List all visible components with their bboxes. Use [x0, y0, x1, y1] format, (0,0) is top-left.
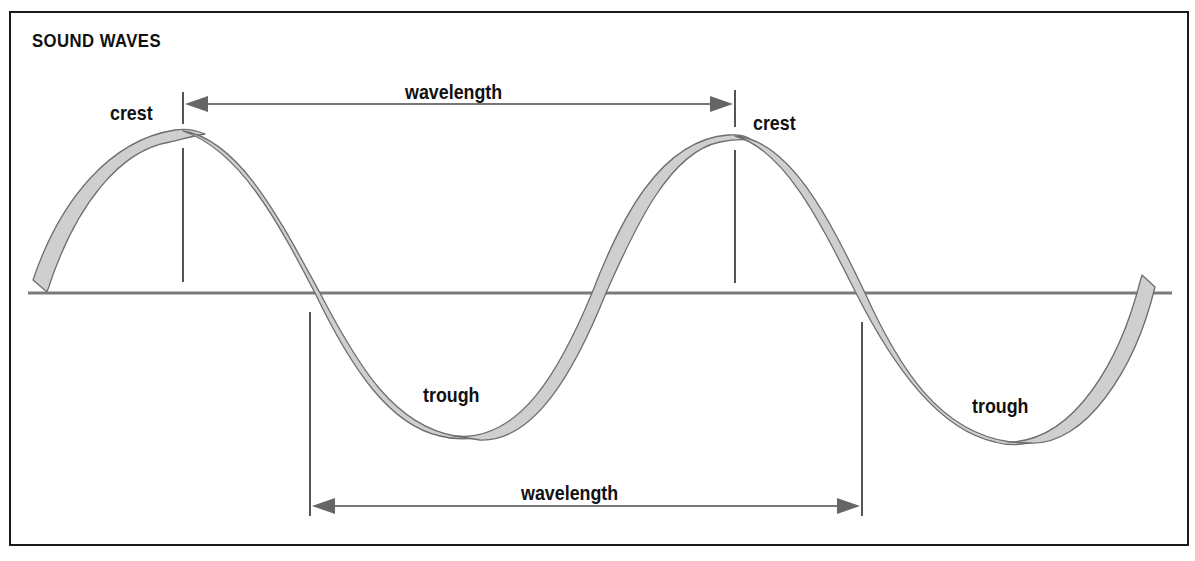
trough-label-right: trough: [972, 394, 1029, 418]
arrowhead-left-icon: [185, 96, 208, 112]
arrowhead-right-icon: [710, 96, 733, 112]
arrowhead-right-icon: [837, 498, 860, 514]
crest-label-right: crest: [753, 111, 796, 135]
wavelength-label-top: wavelength: [405, 80, 502, 104]
crest-label-left: crest: [110, 101, 153, 125]
arrowhead-left-icon: [312, 498, 335, 514]
wavelength-label-bottom: wavelength: [521, 481, 618, 505]
sound-wave-diagram: [0, 0, 1195, 561]
trough-label-left: trough: [423, 383, 480, 407]
